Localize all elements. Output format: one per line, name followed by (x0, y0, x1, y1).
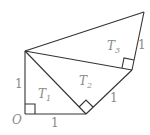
left-side-label: 1 (15, 77, 23, 91)
triangle-spiral-diagram: 1 O 1 T 1 T 2 1 T 3 1 (0, 0, 150, 135)
t2-right-angle-mark (79, 100, 93, 107)
origin-label: O (12, 113, 22, 127)
t2-subscript: 2 (86, 81, 92, 90)
t1-subscript: 1 (46, 94, 51, 103)
t2-leg (86, 70, 132, 114)
t2-side-label: 1 (110, 91, 118, 105)
t3-subscript: 3 (115, 46, 120, 55)
bottom-side-label: 1 (51, 116, 59, 130)
t3-side-label: 1 (138, 38, 146, 52)
t1-right-angle-mark (25, 104, 35, 114)
t3-hypotenuse (25, 12, 144, 51)
